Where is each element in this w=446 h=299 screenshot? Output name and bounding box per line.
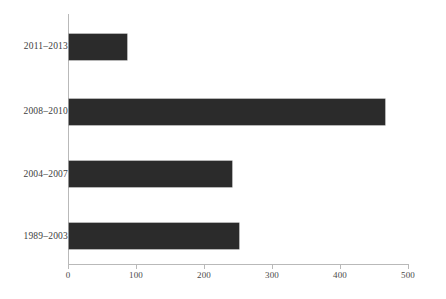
y-category-label-2008-2010: 2008–2010 xyxy=(23,106,68,116)
bar-2004-2007 xyxy=(69,161,232,187)
x-tick-label-300: 300 xyxy=(265,270,279,280)
x-tick-mark xyxy=(340,264,341,269)
x-tick-mark xyxy=(136,264,137,269)
y-category-label-2011-2013: 2011–2013 xyxy=(24,41,68,51)
x-tick-mark xyxy=(204,264,205,269)
x-axis-line xyxy=(68,264,409,265)
x-tick-mark xyxy=(68,264,69,269)
x-tick-label-500: 500 xyxy=(401,270,415,280)
x-tick-mark xyxy=(272,264,273,269)
x-tick-label-400: 400 xyxy=(333,270,347,280)
x-tick-mark xyxy=(408,264,409,269)
y-category-label-2004-2007: 2004–2007 xyxy=(23,169,68,179)
bar-chart: 0 100 200 300 400 500 2011–2013 2008–201… xyxy=(0,0,446,299)
bar-2008-2010 xyxy=(69,99,385,125)
x-tick-label-200: 200 xyxy=(197,270,211,280)
bar-2011-2013 xyxy=(69,34,127,60)
bar-1989-2003 xyxy=(69,223,239,249)
y-category-label-1989-2003: 1989–2003 xyxy=(23,231,68,241)
x-tick-label-100: 100 xyxy=(129,270,143,280)
x-tick-label-0: 0 xyxy=(66,270,71,280)
